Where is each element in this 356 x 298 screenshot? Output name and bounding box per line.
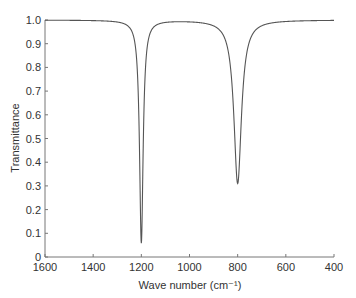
y-tick-label: 0.5 (26, 133, 41, 145)
y-tick-label: 0.8 (26, 61, 41, 73)
y-axis-title: Transmittance (9, 103, 21, 172)
y-tick-label: 0.2 (26, 204, 41, 216)
ticks: 00.10.20.30.40.50.60.70.80.91.0160014001… (26, 14, 343, 273)
y-tick-label: 1.0 (26, 14, 41, 26)
spectrum-line (45, 20, 334, 243)
x-tick-label: 1400 (81, 261, 105, 273)
transmittance-chart: 00.10.20.30.40.50.60.70.80.91.0160014001… (0, 0, 356, 298)
y-tick-label: 0.9 (26, 38, 41, 50)
y-tick-label: 0.7 (26, 85, 41, 97)
x-tick-label: 800 (228, 261, 246, 273)
x-tick-label: 600 (277, 261, 295, 273)
y-tick-label: 0.4 (26, 156, 41, 168)
x-tick-label: 1200 (129, 261, 153, 273)
x-tick-label: 400 (325, 261, 343, 273)
axes (45, 20, 334, 257)
y-tick-label: 0.6 (26, 109, 41, 121)
y-tick-label: 0.3 (26, 180, 41, 192)
x-tick-label: 1600 (33, 261, 57, 273)
x-tick-label: 1000 (177, 261, 201, 273)
x-axis-title: Wave number (cm⁻¹) (139, 279, 242, 291)
y-tick-label: 0.1 (26, 227, 41, 239)
